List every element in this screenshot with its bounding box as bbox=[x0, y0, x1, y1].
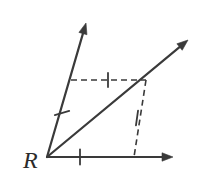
steep-ray-arrowhead bbox=[79, 23, 87, 35]
horizontal-ray-arrowhead bbox=[162, 153, 173, 161]
vertex-label-r: R bbox=[23, 148, 38, 172]
dashed-construction-lines bbox=[71, 80, 146, 157]
tick-lower-dashed bbox=[136, 111, 138, 126]
tick-steep-ray bbox=[55, 111, 69, 115]
bisector-ray bbox=[47, 40, 188, 157]
angle-rays bbox=[47, 23, 188, 161]
geometry-figure: R bbox=[0, 0, 198, 180]
lower-dashed-segment bbox=[134, 80, 146, 157]
horizontal-ray bbox=[47, 153, 173, 161]
steep-ray bbox=[47, 23, 87, 157]
steep-ray-shaft bbox=[47, 31, 84, 157]
bisector-ray-shaft bbox=[47, 45, 182, 157]
